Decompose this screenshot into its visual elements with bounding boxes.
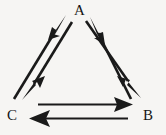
graph-canvas	[0, 0, 166, 135]
node-label-a: A	[74, 3, 85, 18]
node-label-b: B	[143, 108, 153, 123]
directed-graph-diagram: A B C	[0, 0, 166, 135]
diagram-background	[0, 0, 166, 135]
node-label-c: C	[7, 108, 17, 123]
